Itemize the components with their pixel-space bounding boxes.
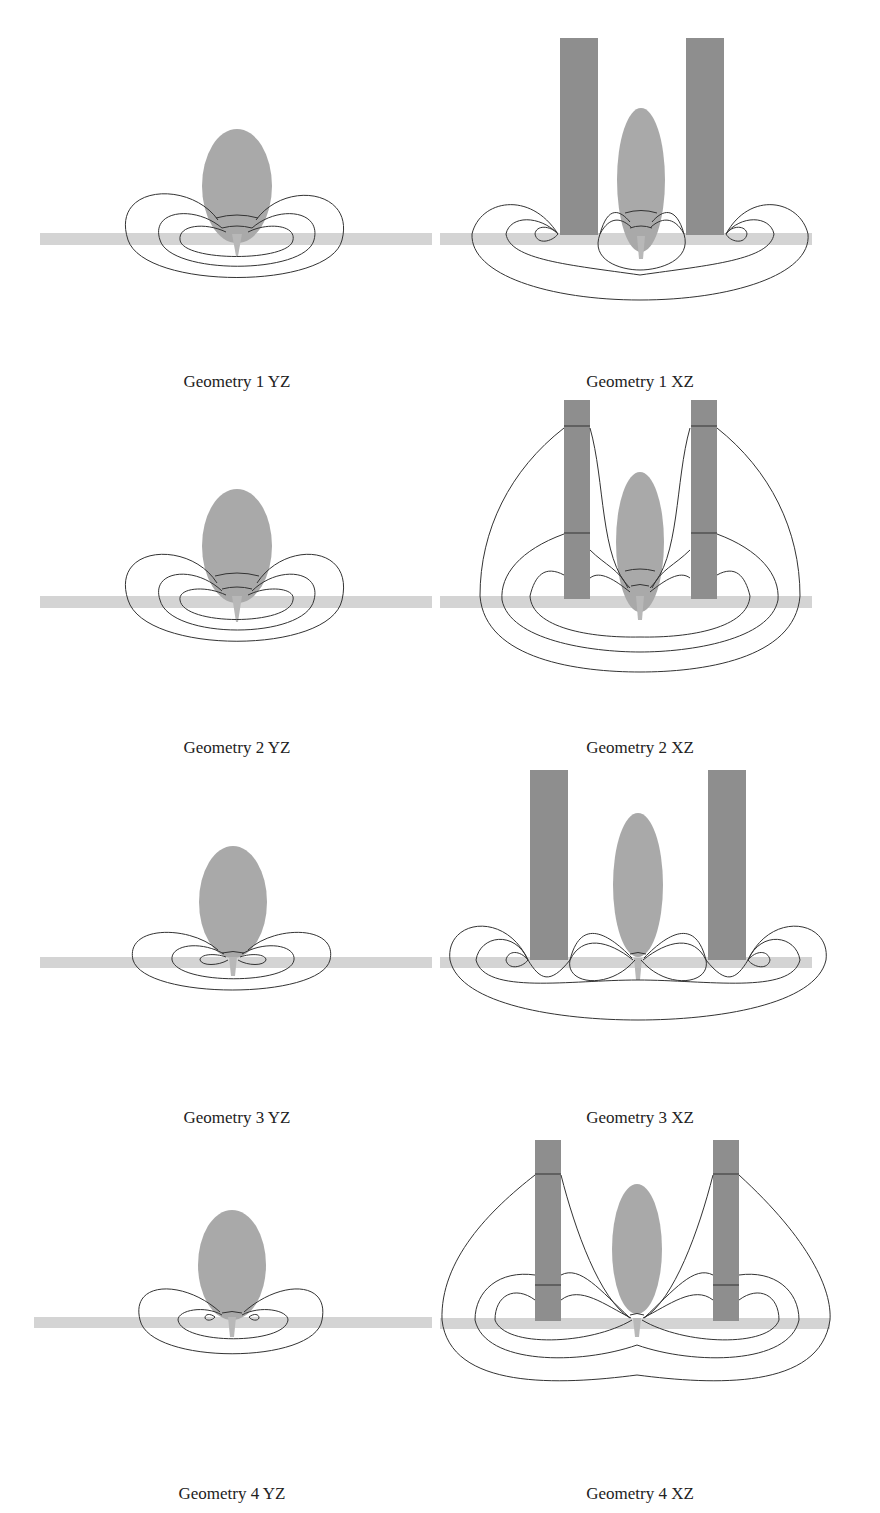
stem [634, 958, 642, 980]
panel-geometry-3-xz: Geometry 3 XZ [440, 770, 880, 1140]
stem [232, 596, 242, 622]
field-diagram-g1-yz [0, 0, 440, 400]
panel-geometry-1-xz: Geometry 1 XZ [440, 0, 880, 400]
caption-g3-xz: Geometry 3 XZ [586, 1108, 694, 1128]
panel-geometry-4-xz: Geometry 4 XZ [440, 1140, 880, 1513]
electrode-right [691, 484, 717, 599]
stem [633, 1318, 641, 1337]
electrode-right [713, 1140, 739, 1321]
stem [636, 596, 644, 620]
electrode-right [686, 38, 724, 235]
electrode-left [530, 770, 568, 960]
caption-g4-yz: Geometry 4 YZ [178, 1484, 285, 1504]
ellipsoid-body [612, 1184, 662, 1314]
electrode-left-upper [564, 400, 590, 484]
field-diagram-g3-yz [0, 770, 440, 1140]
ellipsoid-body [617, 108, 665, 252]
electrode-left [535, 1140, 561, 1321]
field-diagram-g4-xz [440, 1140, 880, 1513]
caption-g2-xz: Geometry 2 XZ [586, 738, 694, 758]
ellipsoid-body [199, 846, 267, 958]
electrode-left [564, 484, 590, 599]
electrode-right [708, 770, 746, 960]
caption-g1-yz: Geometry 1 YZ [183, 372, 290, 392]
stem [637, 236, 645, 259]
field-diagram-g2-xz [440, 400, 880, 770]
ellipsoid-body [616, 472, 664, 612]
electrode-right-upper [691, 400, 717, 484]
panel-geometry-1-yz: Geometry 1 YZ [0, 0, 440, 400]
panel-geometry-2-xz: Geometry 2 XZ [440, 400, 880, 770]
panel-geometry-4-yz: Geometry 4 YZ [0, 1140, 440, 1513]
caption-g1-xz: Geometry 1 XZ [586, 372, 694, 392]
field-diagram-g2-yz [0, 400, 440, 770]
caption-g2-yz: Geometry 2 YZ [183, 738, 290, 758]
stem [229, 957, 237, 976]
stem [228, 1317, 236, 1337]
caption-g3-yz: Geometry 3 YZ [183, 1108, 290, 1128]
ellipsoid-body [613, 813, 663, 957]
panel-geometry-3-yz: Geometry 3 YZ [0, 770, 440, 1140]
ellipsoid-body [202, 489, 272, 603]
field-diagram-g3-xz [440, 770, 880, 1140]
panel-geometry-2-yz: Geometry 2 YZ [0, 400, 440, 770]
field-diagram-g1-xz [440, 0, 880, 400]
electrode-left [560, 38, 598, 235]
field-diagram-g4-yz [0, 1140, 440, 1513]
caption-g4-xz: Geometry 4 XZ [586, 1484, 694, 1504]
